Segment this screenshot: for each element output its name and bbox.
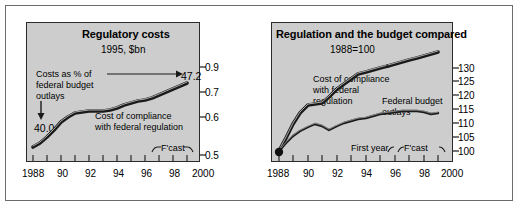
right-series2-label-line-2: outlays [382,107,411,118]
right-ytick-label-2: 120 [458,90,475,101]
left-series-label-line-2: with federal regulation [95,122,183,133]
right-series2-label-line-1: Federal budget [382,96,443,107]
left-ytick-label-1: 0.7 [205,87,219,98]
right-xtick-label-4: 96 [390,168,401,179]
right-xtick-label-1: 90 [303,168,314,179]
left-xtick-label-5: 98 [169,168,180,179]
chart-panel-regulation-budget [271,22,453,162]
left-xtick-label-6: 2000 [192,168,214,179]
left-note-line-3: outlays [36,91,65,102]
right-series1-label-line-1: Cost of compliance [313,74,390,85]
right-series1-label-line-2: with federal [313,85,359,96]
left-chart-subtitle: 1995, $bn [101,44,146,55]
figure-root: Regulatory costs 1995, $bn Costs as % of… [0,0,520,208]
right-chart-title: Regulation and the budget compared [276,28,467,40]
left-end-value-label: 47.2 [181,70,201,82]
right-ytick-label-4: 110 [458,118,474,129]
left-xtick-label-3: 94 [113,168,124,179]
left-chart-title: Regulatory costs [82,28,170,40]
left-ytick-label-2: 0.6 [205,112,219,123]
right-first-year-label: First year [351,143,389,153]
left-xtick-label-1: 90 [57,168,68,179]
right-xtick-label-3: 94 [361,168,372,179]
left-note-line-1: Costs as % of [36,69,92,80]
right-ytick-label-6: 100 [458,146,475,157]
right-forecast-label: F'cast [404,143,428,153]
right-xtick-label-5: 98 [419,168,430,179]
right-ytick-label-0: 130 [458,63,475,74]
right-ytick-label-5: 105 [458,132,475,143]
left-xtick-label-4: 96 [141,168,152,179]
left-ytick-label-3: 0.5 [205,150,219,161]
right-chart-subtitle: 1988=100 [330,44,375,55]
right-xtick-label-0: 1988 [267,168,289,179]
right-series1-label-line-3: regulation [313,96,353,107]
left-forecast-label: F'cast [161,143,185,153]
left-start-value-label: 40.0 [34,122,54,134]
left-series-label-line-1: Cost of compliance [95,111,172,122]
right-ytick-label-3: 115 [458,104,474,115]
left-ytick-label-0: 0.9 [205,62,219,73]
right-ytick-label-1: 125 [458,76,475,87]
right-xtick-label-6: 2000 [441,168,463,179]
left-note-line-2: federal budget [36,80,94,91]
right-xtick-label-2: 92 [332,168,343,179]
left-xtick-label-0: 1988 [22,168,44,179]
left-xtick-label-2: 92 [85,168,96,179]
